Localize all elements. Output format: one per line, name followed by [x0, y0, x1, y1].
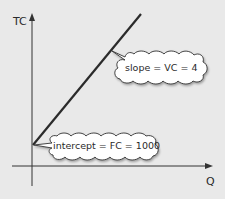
y-axis-arrow-icon	[29, 13, 35, 21]
chart-canvas	[0, 0, 225, 199]
x-axis-arrow-icon	[205, 163, 213, 169]
y-axis	[29, 13, 35, 186]
intercept-annotation: intercept = FC = 1000	[53, 141, 160, 151]
x-axis-label: Q	[206, 176, 215, 187]
y-axis-label: TC	[13, 16, 27, 27]
x-axis	[12, 163, 213, 169]
slope-annotation: slope = VC = 4	[125, 63, 197, 73]
